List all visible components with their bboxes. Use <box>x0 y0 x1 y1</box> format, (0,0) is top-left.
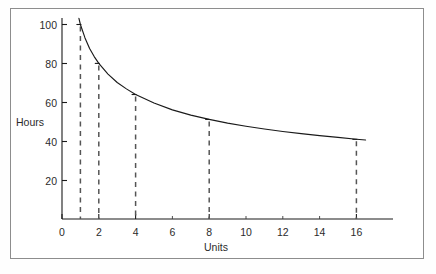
figure-root: 100 80 60 40 20 Hours 0 2 4 6 8 10 12 14… <box>0 0 436 274</box>
x-tick-label-4: 4 <box>133 226 139 238</box>
y-tick-label-80: 80 <box>45 58 57 70</box>
x-tick-label-12: 12 <box>277 226 289 238</box>
y-tick-label-40: 40 <box>45 136 57 148</box>
x-tick-label-0: 0 <box>59 226 65 238</box>
x-tick-label-2: 2 <box>96 226 102 238</box>
y-axis-title: Hours <box>16 116 44 128</box>
x-tick-label-8: 8 <box>206 226 212 238</box>
learning-curve-chart: 100 80 60 40 20 Hours 0 2 4 6 8 10 12 14… <box>0 0 436 274</box>
x-axis-title: Units <box>204 241 228 253</box>
curve-marker-group <box>76 25 357 140</box>
drop-line-group <box>80 27 356 220</box>
y-tick-label-60: 60 <box>45 97 57 109</box>
learning-curve-path <box>79 18 366 140</box>
x-tick-label-16: 16 <box>351 226 363 238</box>
x-tick-label-10: 10 <box>240 226 252 238</box>
x-tick-label-14: 14 <box>314 226 326 238</box>
x-tick-label-6: 6 <box>169 226 175 238</box>
y-tick-label-20: 20 <box>45 175 57 187</box>
y-tick-label-100: 100 <box>39 19 57 31</box>
